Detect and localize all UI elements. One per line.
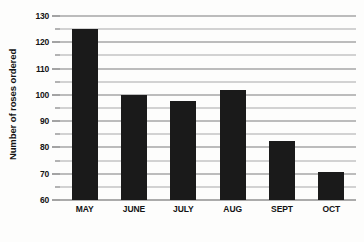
y-axis-title: Number of roses ordered bbox=[0, 0, 26, 208]
y-axis-tick-label: 80 bbox=[40, 142, 49, 152]
x-axis-tick-label: JULY bbox=[159, 204, 208, 220]
y-axis-tick-labels: 13012011010090807060 bbox=[26, 16, 52, 200]
x-axis-tick-label: SEPT bbox=[257, 204, 306, 220]
bar-chart-screenshot: Number of roses ordered 1301201101009080… bbox=[0, 0, 364, 242]
bar-slot bbox=[109, 16, 158, 200]
y-axis-tick-mark bbox=[52, 147, 60, 148]
y-axis-tick-label: 110 bbox=[36, 64, 49, 74]
x-axis-tick-label: MAY bbox=[60, 204, 109, 220]
y-axis-tick-label: 100 bbox=[35, 90, 49, 100]
bar-slot bbox=[257, 16, 306, 200]
y-axis-tick-label: 120 bbox=[35, 37, 49, 47]
bar bbox=[72, 29, 98, 200]
y-axis-tick-label: 90 bbox=[40, 116, 49, 126]
y-axis-tick-label: 130 bbox=[35, 11, 49, 21]
bar bbox=[318, 172, 344, 200]
y-axis-tick-mark bbox=[52, 94, 60, 95]
x-axis-tick-label: OCT bbox=[307, 204, 356, 220]
x-axis-tick-label: AUG bbox=[208, 204, 257, 220]
y-axis-title-label: Number of roses ordered bbox=[8, 48, 19, 159]
y-axis-tick-mark bbox=[52, 173, 60, 174]
bar-slot bbox=[60, 16, 109, 200]
plot-area bbox=[60, 16, 356, 200]
bar-slot bbox=[307, 16, 356, 200]
y-axis-tick-label: 70 bbox=[40, 169, 49, 179]
y-axis-tick-mark bbox=[52, 16, 60, 17]
y-axis-tick-mark bbox=[52, 42, 60, 43]
y-axis-tick-marks bbox=[52, 16, 60, 200]
y-axis-tick-label: 60 bbox=[40, 195, 49, 205]
bar-series bbox=[60, 16, 356, 200]
bar bbox=[121, 95, 147, 200]
x-axis-tick-label: JUNE bbox=[109, 204, 158, 220]
bar-slot bbox=[159, 16, 208, 200]
bar-slot bbox=[208, 16, 257, 200]
bar bbox=[269, 141, 295, 200]
y-axis-tick-mark bbox=[52, 200, 60, 201]
bar bbox=[170, 101, 196, 200]
bar bbox=[220, 90, 246, 200]
y-axis-tick-mark bbox=[52, 121, 60, 122]
y-axis-tick-mark bbox=[52, 68, 60, 69]
x-axis-tick-labels: MAYJUNEJULYAUGSEPTOCT bbox=[60, 204, 356, 220]
